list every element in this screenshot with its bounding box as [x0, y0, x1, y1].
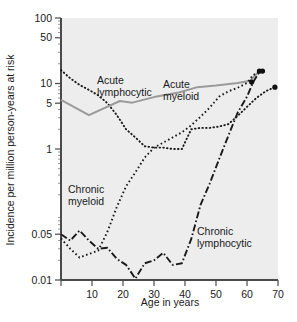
y-tick-label-0.01: 0.01: [32, 274, 53, 286]
x-tick-label-20: 20: [117, 288, 129, 300]
endpoint-marker-acute-lymphocytic: [272, 85, 277, 90]
label-chronic-myeloid: Chronicmyeloid: [68, 183, 104, 207]
label-line-2: lymphocytic: [97, 86, 152, 98]
label-line-1: Chronic: [68, 183, 104, 195]
y-tick-label-10: 10: [40, 77, 52, 89]
y-tick-label-50: 50: [40, 31, 52, 43]
endpoint-marker-chronic-lymphocytic: [249, 80, 254, 85]
label-line-2: myeloid: [163, 90, 199, 102]
label-line-1: Chronic: [197, 225, 233, 237]
label-line-2: myeloid: [68, 195, 104, 207]
x-axis-title: Age in years: [141, 296, 199, 308]
y-tick-label-5: 5: [46, 97, 52, 109]
y-tick-label-1: 1: [46, 143, 52, 155]
y-axis-title: Incidence per million person-years at ri…: [4, 54, 16, 246]
y-tick-label-100: 100: [34, 12, 52, 24]
label-line-1: Acute: [97, 74, 124, 86]
label-line-2: lymphocytic: [197, 237, 252, 249]
x-tick-label-60: 60: [241, 288, 253, 300]
label-line-1: Acute: [163, 78, 190, 90]
incidence-vs-age-chart: 0.010.05151050100 10203040506070 Acutely…: [0, 0, 297, 322]
chart-figure: 0.010.05151050100 10203040506070 Acutely…: [0, 0, 297, 322]
y-tick-label-0.05: 0.05: [32, 228, 53, 240]
endpoint-marker-chronic-myeloid: [260, 68, 265, 73]
x-tick-label-10: 10: [86, 288, 98, 300]
x-tick-label-50: 50: [210, 288, 222, 300]
x-tick-label-70: 70: [272, 288, 284, 300]
